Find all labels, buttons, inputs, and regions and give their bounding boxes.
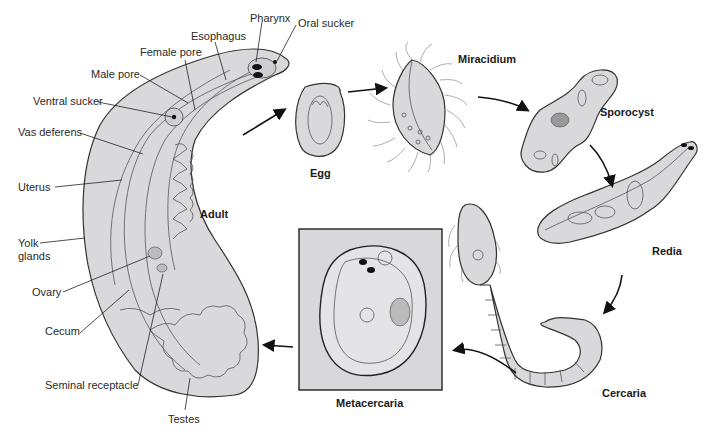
label-metacercaria: Metacercaria [336, 397, 404, 409]
label-ovary: Ovary [32, 286, 62, 298]
arrow-sporocyst-to-redia [590, 145, 612, 185]
metacercaria [299, 229, 442, 390]
arrow-redia-to-cercaria [605, 275, 622, 312]
miracidium [368, 42, 467, 172]
sporocyst [521, 70, 617, 172]
label-testes: Testes [168, 413, 200, 425]
label-sporocyst: Sporocyst [600, 106, 654, 118]
label-seminal-receptacle: Seminal receptacle [45, 379, 139, 391]
pharynx-shape [252, 64, 262, 70]
label-oral-sucker: Oral sucker [298, 17, 355, 29]
arrow-miracidium-to-sporocyst [478, 97, 527, 110]
oral-sucker-shape [273, 60, 277, 64]
label-male-pore: Male pore [91, 68, 140, 80]
label-yolk-glands-line2: glands [18, 250, 51, 262]
arrow-adult-to-egg [243, 110, 284, 135]
label-egg: Egg [310, 167, 331, 179]
label-esophagus: Esophagus [191, 30, 247, 42]
label-pharynx: Pharynx [250, 12, 291, 24]
label-uterus: Uterus [18, 181, 51, 193]
adult-body [83, 49, 289, 397]
life-cycle-diagram: Pharynx Oral sucker Esophagus Female por… [0, 0, 707, 439]
label-adult: Adult [200, 208, 228, 220]
label-redia: Redia [652, 245, 683, 257]
label-female-pore: Female pore [140, 46, 202, 58]
label-ventral-sucker: Ventral sucker [33, 95, 103, 107]
label-yolk-glands-line1: Yolk [18, 237, 39, 249]
label-cecum: Cecum [45, 325, 80, 337]
arrow-egg-to-miracidium [348, 88, 385, 92]
egg [296, 83, 345, 156]
label-miracidium: Miracidium [458, 53, 516, 65]
label-vas-deferens: Vas deferens [18, 126, 83, 138]
arrow-metacercaria-to-adult [265, 345, 293, 347]
label-cercaria: Cercaria [602, 387, 647, 399]
